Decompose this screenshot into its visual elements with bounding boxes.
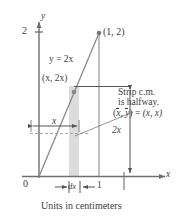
cm-coords-rhs: (x, x) [143,108,163,118]
cm-coords-close: ) = [129,108,142,118]
y-bar-symbol: y [125,109,129,119]
point-marker-x-2x [72,90,77,95]
figure-caption: Units in centimeters [41,201,122,211]
dx-label: dx [68,182,76,191]
x-axis-label: x [166,170,170,180]
note-line-2: is halfway. [118,98,159,108]
y-tick-label-2: 2 [22,26,27,36]
extent-label-2x: 2x [112,126,121,136]
note-line-3: (x, y) = (x, x) [113,109,162,119]
x-bar-symbol: x [116,109,120,119]
point-marker-1-2 [97,31,102,36]
origin-label: 0 [23,179,28,189]
point-label-x-2x: (x, 2x) [42,74,67,84]
extent-label-x: x [52,117,56,127]
point-label-1-2: (1, 2) [103,27,125,37]
y-axis-label: y [41,12,45,22]
x-tick-label-1: 1 [97,181,102,191]
curve-equation-label: y = 2x [49,55,73,65]
